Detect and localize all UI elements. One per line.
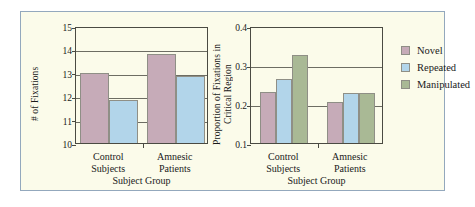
legend-label: Repeated: [417, 62, 456, 73]
legend-swatch-icon: [401, 46, 410, 55]
y-tick-label: 15: [63, 23, 73, 33]
x-group-label-line: Patients: [317, 163, 384, 175]
legend-item: Novel: [401, 42, 475, 59]
y-axis-label-right-line2: Critical Region: [223, 24, 234, 164]
x-group-label-line: Subjects: [250, 163, 317, 175]
y-tick-label: 14: [63, 46, 73, 56]
y-tick-mark: [72, 145, 76, 146]
bar-group: [80, 28, 138, 143]
bar: [80, 73, 109, 143]
y-axis-label-left: # of Fixations: [30, 36, 42, 151]
bar: [327, 102, 343, 143]
y-tick-label: 0.1: [235, 140, 247, 150]
y-tick-mark: [247, 145, 251, 146]
plot-area-right: 0.10.20.30.4: [250, 27, 383, 144]
legend-swatch-icon: [401, 63, 410, 72]
x-tick-mark: [143, 143, 144, 148]
bar-group: [260, 28, 308, 143]
legend: NovelRepeatedManipulated: [401, 42, 475, 93]
x-axis-label-right: Subject Group: [250, 175, 383, 186]
chart-right: Proportion of Fixations in Critical Regi…: [196, 12, 446, 192]
y-tick-label: 12: [63, 93, 73, 103]
y-tick-label: 13: [63, 70, 73, 80]
bar: [260, 92, 276, 143]
x-group-label: AmnesicPatients: [317, 151, 384, 175]
x-group-label: ControlSubjects: [250, 151, 317, 175]
plot-area-left: 101112131415: [75, 27, 208, 144]
legend-label: Novel: [417, 45, 443, 56]
x-group-label-line: Control: [250, 151, 317, 163]
x-group-label-line: Subjects: [75, 163, 142, 175]
y-tick-label: 11: [63, 117, 72, 127]
bar: [343, 93, 359, 143]
bar-series-right: [251, 28, 382, 143]
bar: [359, 93, 375, 143]
y-tick-label: 10: [63, 140, 73, 150]
chart-left: # of Fixations 101112131415 ControlSubje…: [21, 12, 216, 192]
x-axis-label-left: Subject Group: [75, 175, 208, 186]
x-tick-mark: [318, 143, 319, 148]
legend-item: Manipulated: [401, 76, 475, 93]
y-axis-label-right: Proportion of Fixations in Critical Regi…: [212, 24, 236, 164]
bar: [109, 100, 138, 143]
y-axis-label-right-line1: Proportion of Fixations in: [212, 24, 223, 164]
y-tick-label: 0.3: [235, 62, 247, 72]
bar: [276, 79, 292, 143]
y-tick-label: 0.2: [235, 101, 247, 111]
y-tick-label: 0.4: [235, 23, 247, 33]
legend-item: Repeated: [401, 59, 475, 76]
bar: [147, 54, 176, 143]
x-group-label-line: Control: [75, 151, 142, 163]
x-group-label: ControlSubjects: [75, 151, 142, 175]
legend-label: Manipulated: [417, 79, 470, 90]
bar-series-left: [76, 28, 207, 143]
legend-swatch-icon: [401, 80, 410, 89]
bar-group: [327, 28, 375, 143]
figure-panel: # of Fixations 101112131415 ControlSubje…: [20, 11, 445, 191]
x-group-label-line: Amnesic: [317, 151, 384, 163]
bar: [292, 55, 308, 143]
